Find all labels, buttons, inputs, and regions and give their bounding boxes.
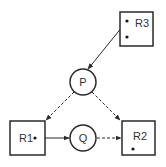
- instance-dot: [125, 19, 128, 22]
- resource-r2: R2: [122, 121, 155, 155]
- resource-r1: R1: [10, 121, 45, 155]
- resource-label: R1: [19, 132, 33, 144]
- instance-dot: [33, 136, 36, 139]
- resource-label: R2: [133, 130, 147, 142]
- process-q: Q: [70, 125, 96, 151]
- edge-p-to-r2: [92, 92, 120, 120]
- resource-label: R3: [135, 17, 149, 29]
- process-label: P: [79, 76, 86, 88]
- resource-allocation-graph: R3 P R1 Q R2: [0, 0, 166, 167]
- process-p: P: [70, 69, 96, 95]
- edge-p-to-r1: [46, 92, 74, 120]
- instance-dot: [131, 147, 134, 150]
- instance-dot: [125, 35, 128, 38]
- resource-r3: R3: [120, 12, 153, 46]
- process-label: Q: [79, 132, 88, 144]
